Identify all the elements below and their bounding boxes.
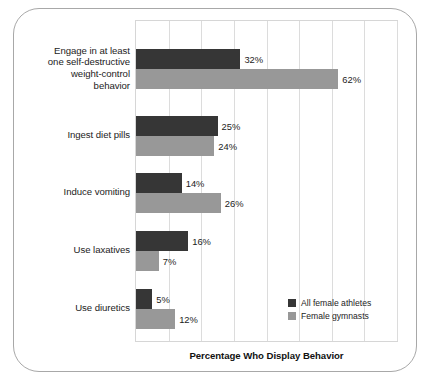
bar-value-label: 25% xyxy=(218,121,241,132)
bar-0-3 xyxy=(136,231,188,251)
bar-1-3 xyxy=(136,251,159,271)
bar-value-label: 32% xyxy=(240,54,263,65)
category-label-2: Induce vomiting xyxy=(8,186,130,198)
bar-row: 16% xyxy=(136,231,397,251)
bar-1-4 xyxy=(136,309,175,329)
legend-swatch-icon xyxy=(288,312,296,320)
category-label-3: Use laxatives xyxy=(8,244,130,256)
legend-label: Female gymnasts xyxy=(301,311,369,321)
bar-value-label: 26% xyxy=(221,198,244,209)
bar-1-1 xyxy=(136,136,214,156)
category-label-1: Ingest diet pills xyxy=(8,129,130,141)
category-axis-labels: Engage in at leastone self-destructivewe… xyxy=(8,20,130,342)
legend-swatch-icon xyxy=(288,299,296,307)
gridline-80 xyxy=(397,21,398,341)
bar-0-2 xyxy=(136,173,182,193)
bar-row: 14% xyxy=(136,173,397,193)
bar-0-4 xyxy=(136,289,152,309)
bar-value-label: 62% xyxy=(338,74,361,85)
legend-item: All female athletes xyxy=(288,298,371,308)
bar-value-label: 7% xyxy=(159,256,177,267)
chart-legend: All female athletesFemale gymnasts xyxy=(288,298,371,324)
bar-value-label: 5% xyxy=(152,294,170,305)
bar-1-0 xyxy=(136,69,338,89)
bar-row: 32% xyxy=(136,49,397,69)
bar-value-label: 14% xyxy=(182,178,205,189)
bar-row: 62% xyxy=(136,69,397,89)
x-axis-title: Percentage Who Display Behavior xyxy=(135,350,398,361)
bar-value-label: 24% xyxy=(214,141,237,152)
bar-chart: 32%62%25%24%14%26%16%7%5%12% Engage in a… xyxy=(0,0,430,386)
legend-label: All female athletes xyxy=(301,298,371,308)
category-label-0: Engage in at leastone self-destructivewe… xyxy=(8,45,130,91)
bar-row: 24% xyxy=(136,136,397,156)
bar-row: 7% xyxy=(136,251,397,271)
plot-area: 32%62%25%24%14%26%16%7%5%12% xyxy=(135,20,398,342)
bar-row: 26% xyxy=(136,193,397,213)
bar-0-0 xyxy=(136,49,240,69)
bar-value-label: 16% xyxy=(188,236,211,247)
bar-value-label: 12% xyxy=(175,314,198,325)
bar-1-2 xyxy=(136,193,221,213)
category-label-4: Use diuretics xyxy=(8,302,130,314)
bar-row: 25% xyxy=(136,116,397,136)
bar-0-1 xyxy=(136,116,218,136)
legend-item: Female gymnasts xyxy=(288,311,371,321)
